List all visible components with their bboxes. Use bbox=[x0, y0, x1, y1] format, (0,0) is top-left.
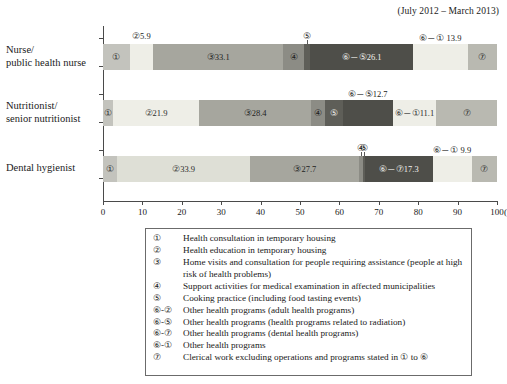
bar-segment[interactable]: ⑥－⑤26.1 bbox=[310, 44, 413, 70]
y-tick bbox=[99, 38, 103, 39]
legend-item-key: ① bbox=[153, 233, 183, 245]
segment-value-label: ④ bbox=[314, 109, 322, 118]
segment-value-label: ⑥－⑤26.1 bbox=[342, 53, 382, 62]
x-tick bbox=[458, 201, 459, 205]
segment-value-label: ③27.7 bbox=[293, 165, 316, 174]
segment-value-label: ⑦ bbox=[480, 165, 488, 174]
legend-item-text: Clerical work excluding operations and p… bbox=[183, 352, 465, 364]
legend-item-text: Health consultation in temporary housing bbox=[183, 233, 465, 245]
plot-area: 0102030405060708090100(%) ①③33.1④⑥－⑤26.1… bbox=[103, 26, 497, 201]
legend-item-key: ② bbox=[153, 245, 183, 257]
bar-segment[interactable]: ②21.9 bbox=[113, 100, 199, 126]
legend-item-text: Other health programs (health programs r… bbox=[183, 317, 465, 329]
bar-segment[interactable]: ① bbox=[103, 100, 113, 126]
legend-item-text: Support activities for medical examinati… bbox=[183, 281, 465, 293]
bar-row: ①②21.9③28.4④⑤⑥－①11.1⑦ bbox=[103, 100, 497, 126]
bar-segment[interactable]: ③27.7 bbox=[250, 156, 359, 182]
x-tick-label: 90 bbox=[453, 207, 462, 217]
callout-leader-line bbox=[307, 40, 308, 44]
segment-value-label: ③28.4 bbox=[244, 109, 267, 118]
x-tick bbox=[300, 201, 301, 205]
bar-row: ①③33.1④⑥－⑤26.1⑦ bbox=[103, 44, 497, 70]
bar-segment[interactable]: ① bbox=[103, 44, 130, 70]
bar-segment[interactable]: ⑦ bbox=[436, 100, 497, 126]
x-tick-label: 80 bbox=[414, 207, 423, 217]
segment-value-label: ⑦ bbox=[463, 109, 471, 118]
segment-value-label: ④ bbox=[290, 53, 298, 62]
legend-item: ①Health consultation in temporary housin… bbox=[153, 233, 465, 245]
category-label-3: Dental hygienist bbox=[6, 162, 100, 175]
segment-callout-label: ⑥－① 9.9 bbox=[433, 143, 471, 155]
segment-callout-label: ②5.9 bbox=[132, 31, 151, 41]
segment-callout-label: ⑥－① 13.9 bbox=[419, 31, 461, 43]
x-tick-label: 70 bbox=[374, 207, 383, 217]
x-tick bbox=[379, 201, 380, 205]
bar-segment[interactable] bbox=[343, 100, 393, 126]
x-tick bbox=[103, 201, 104, 205]
segment-value-label: ① bbox=[112, 53, 120, 62]
x-tick-label: 60 bbox=[335, 207, 344, 217]
segment-value-label: ① bbox=[104, 109, 112, 118]
bar-segment[interactable]: ① bbox=[103, 156, 117, 182]
bar-segment[interactable]: ③28.4 bbox=[199, 100, 311, 126]
legend-item-text: Other health programs (dental health pro… bbox=[183, 328, 465, 340]
x-tick-label: 100 bbox=[490, 207, 504, 217]
bar-segment[interactable]: ⑥－⑦17.3 bbox=[365, 156, 433, 182]
legend-item-key: ⑤ bbox=[153, 293, 183, 305]
x-tick-label: 30 bbox=[217, 207, 226, 217]
bar-segment[interactable]: ③33.1 bbox=[153, 44, 283, 70]
bar-segment[interactable]: ②33.9 bbox=[117, 156, 251, 182]
x-tick bbox=[497, 201, 498, 205]
bar-segment[interactable]: ⑦ bbox=[472, 156, 497, 182]
segment-value-label: ③33.1 bbox=[207, 53, 230, 62]
legend-item: ②Health education in temporary housing bbox=[153, 245, 465, 257]
x-tick-label: 50 bbox=[296, 207, 305, 217]
legend-item-text: Health education in temporary housing bbox=[183, 245, 465, 257]
segment-value-label: ⑥－①11.1 bbox=[395, 109, 435, 118]
bar-segment[interactable]: ④ bbox=[283, 44, 304, 70]
period-note: (July 2012 – March 2013) bbox=[397, 6, 499, 16]
y-tick bbox=[99, 178, 103, 179]
bar-segment[interactable] bbox=[130, 44, 153, 70]
y-tick bbox=[99, 94, 103, 95]
category-label-2: Nutritionist/senior nutritionist bbox=[6, 100, 100, 125]
bar-segment[interactable]: ⑥－①11.1 bbox=[393, 100, 437, 126]
segment-value-label: ① bbox=[106, 165, 114, 174]
legend-box: ①Health consultation in temporary housin… bbox=[145, 228, 472, 376]
chart-page: (July 2012 – March 2013) Nurse/public he… bbox=[0, 0, 507, 384]
y-tick bbox=[99, 150, 103, 151]
legend-item: ⑥-⑦Other health programs (dental health … bbox=[153, 328, 465, 340]
legend-item-key: ⑦ bbox=[153, 352, 183, 364]
x-tick bbox=[142, 201, 143, 205]
legend-item-text: Home visits and consultation for people … bbox=[183, 257, 465, 280]
bar-segment[interactable]: ⑦ bbox=[468, 44, 497, 70]
x-tick bbox=[221, 201, 222, 205]
segment-value-label: ⑦ bbox=[478, 53, 486, 62]
y-tick bbox=[99, 122, 103, 123]
segment-value-label: ②21.9 bbox=[145, 109, 168, 118]
legend-item-text: Other health programs (adult health prog… bbox=[183, 305, 465, 317]
x-tick-label: 0 bbox=[101, 207, 106, 217]
bar-segment[interactable] bbox=[433, 156, 472, 182]
legend-item: ③Home visits and consultation for people… bbox=[153, 257, 465, 280]
legend-item: ⑥-②Other health programs (adult health p… bbox=[153, 305, 465, 317]
legend-item: ⑥-①Other health programs bbox=[153, 340, 465, 352]
x-tick-label: 40 bbox=[256, 207, 265, 217]
legend-item-key: ⑥-⑤ bbox=[153, 317, 183, 329]
legend-item: ⑥-⑤Other health programs (health program… bbox=[153, 317, 465, 329]
bar-segment[interactable]: ④ bbox=[311, 100, 325, 126]
segment-value-label: ⑤ bbox=[330, 109, 338, 118]
x-tick bbox=[418, 201, 419, 205]
legend-item: ④Support activities for medical examinat… bbox=[153, 281, 465, 293]
bar-segment[interactable]: ⑤ bbox=[325, 100, 343, 126]
segment-value-label: ⑥－⑦17.3 bbox=[379, 165, 419, 174]
legend-item-text: Cooking practice (including food tasting… bbox=[183, 293, 465, 305]
segment-value-label: ②33.9 bbox=[172, 165, 195, 174]
legend-item-key: ④ bbox=[153, 281, 183, 293]
bar-segment[interactable] bbox=[413, 44, 468, 70]
x-tick-label: 20 bbox=[177, 207, 186, 217]
segment-callout-label: ⑥－⑤12.7 bbox=[348, 87, 388, 99]
legend-item-key: ⑥-⑦ bbox=[153, 328, 183, 340]
legend-item-key: ③ bbox=[153, 257, 183, 269]
x-tick bbox=[182, 201, 183, 205]
